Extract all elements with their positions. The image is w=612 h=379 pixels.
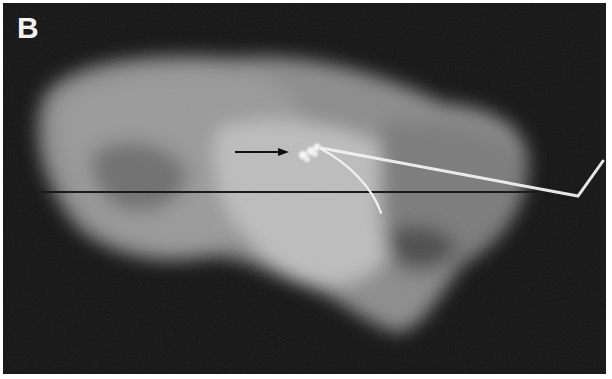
radiograph-panel: B <box>3 3 606 374</box>
panel-label: B <box>17 13 39 43</box>
specimen-radiograph <box>3 3 606 374</box>
